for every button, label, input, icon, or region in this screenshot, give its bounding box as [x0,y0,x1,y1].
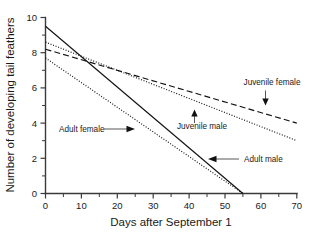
y-tick-label-8: 8 [32,47,37,58]
annotation-label-adult-male: Adult male [244,155,283,164]
x-tick-label-50: 50 [220,200,231,211]
y-tick-label-0: 0 [32,188,37,199]
y-tick-label-2: 2 [32,153,37,164]
x-tick-label-30: 30 [148,200,159,211]
y-tick-label-4: 4 [32,118,37,129]
chart-figure: 0 2 4 6 8 10 0 10 [0,0,312,237]
annotation-label-adult-female: Adult female [59,125,105,134]
y-axis-title: Number of developing tail feathers [4,17,16,192]
y-tick-label-6: 6 [32,82,37,93]
y-tick-label-10: 10 [26,12,37,23]
x-tick-label-0: 0 [43,200,48,211]
annotation-label-juvenile-male: Juvenile male [177,122,228,131]
x-axis-title: Days after September 1 [110,216,231,228]
x-tick-label-70: 70 [292,200,303,211]
x-tick-label-20: 20 [112,200,123,211]
x-tick-label-40: 40 [184,200,195,211]
x-tick-label-60: 60 [256,200,267,211]
chart-canvas: 0 2 4 6 8 10 0 10 [0,0,312,237]
annotation-label-juvenile-female: Juvenile female [244,78,301,87]
x-tick-label-10: 10 [76,200,87,211]
